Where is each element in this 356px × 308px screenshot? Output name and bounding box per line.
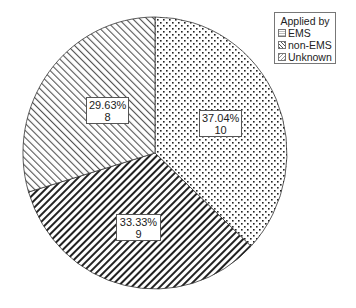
legend-label: Unknown xyxy=(288,51,332,63)
slice-label-non-ems: 33.33% 9 xyxy=(116,214,161,241)
legend-label: EMS xyxy=(288,27,311,39)
slice-label-ems: 37.04% 10 xyxy=(199,110,242,137)
unknown-swatch-icon xyxy=(278,53,286,61)
slice-count: 8 xyxy=(89,111,126,123)
legend-label: non-EMS xyxy=(288,39,332,51)
non-ems-swatch-icon xyxy=(278,41,286,49)
ems-swatch-icon xyxy=(278,29,286,37)
legend: Applied by EMS non-EMS Unknown xyxy=(274,12,336,64)
slice-count: 9 xyxy=(119,228,158,240)
legend-title: Applied by xyxy=(275,15,335,27)
slice-percent: 33.33% xyxy=(119,216,158,228)
legend-item-non-ems: non-EMS xyxy=(278,39,335,51)
legend-item-unknown: Unknown xyxy=(278,51,335,63)
slice-label-unknown: 29.63% 8 xyxy=(86,97,129,124)
slice-percent: 29.63% xyxy=(89,99,126,111)
slice-count: 10 xyxy=(202,124,239,136)
legend-item-ems: EMS xyxy=(278,27,335,39)
slice-percent: 37.04% xyxy=(202,112,239,124)
